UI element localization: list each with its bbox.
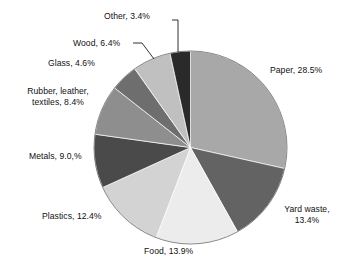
slice-label-paper: Paper, 28.5% [270, 65, 322, 76]
slice-label-rubber-line1: Rubber, leather, [27, 86, 88, 96]
leader-line-wood [133, 43, 154, 59]
slice-label-yard-line2: 13.4% [295, 215, 320, 225]
leader-line-other [172, 20, 178, 52]
slice-label-yard-waste: Yard waste, 13.4% [272, 204, 342, 226]
slice-label-plastics: Plastics, 12.4% [42, 211, 102, 222]
slice-label-glass: Glass, 4.6% [48, 58, 95, 69]
slice-label-wood: Wood, 6.4% [73, 38, 120, 49]
pie-chart-canvas [0, 0, 352, 273]
slice-label-rubber-leather-textiles: Rubber, leather, textiles, 8.4% [10, 86, 106, 108]
slice-label-other: Other, 3.4% [104, 11, 150, 22]
pie-slice-group [94, 51, 287, 244]
slice-label-food: Food, 13.9% [144, 246, 193, 257]
slice-label-rubber-line2: textiles, 8.4% [32, 97, 84, 107]
slice-label-yard-line1: Yard waste, [284, 204, 329, 214]
slice-label-metals: Metals, 9.0,% [29, 151, 82, 162]
pie-chart: Other, 3.4% Wood, 6.4% Glass, 4.6% Rubbe… [0, 0, 352, 273]
